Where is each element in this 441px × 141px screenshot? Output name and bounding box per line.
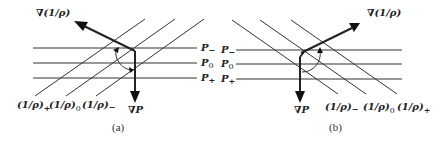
label-grad-pressure-a: ∇P xyxy=(128,104,144,115)
isostere-2-a xyxy=(66,19,175,96)
label-isostere-3-a: (1/ρ)− xyxy=(82,99,115,112)
label-isostere-1-a: (1/ρ)+ xyxy=(17,99,50,113)
label-isobar-p-plus-b: P+ xyxy=(220,73,235,86)
label-isostere-2-a: (1/ρ)0 xyxy=(49,99,81,113)
isostere-2-b xyxy=(260,20,366,94)
label-isobar-p-minus-b: P− xyxy=(220,44,235,57)
arrowhead-icon xyxy=(349,23,360,32)
angle-arc-b xyxy=(302,51,320,72)
panel-b: ∇(1/ρ) ∇P P− P0 P+ (1/ρ)− (1/ρ)0 (1/ρ)+ … xyxy=(220,7,430,134)
label-isobar-p-zero-a: P0 xyxy=(200,57,214,70)
grad-specific-volume-arrow-a xyxy=(82,25,135,51)
arrowhead-icon xyxy=(130,91,140,103)
label-isostere-1-b: (1/ρ)− xyxy=(325,101,358,114)
label-grad-specific-volume-b: ∇(1/ρ) xyxy=(367,7,402,18)
arrowhead-icon xyxy=(295,91,305,103)
solenoid-diagram: ∇(1/ρ) ∇P P− P0 P+ (1/ρ)+ (1/ρ)0 (1/ρ)− … xyxy=(0,0,441,141)
isostere-3-a xyxy=(96,19,204,96)
label-isostere-2-b: (1/ρ)0 xyxy=(363,101,395,115)
label-isobar-p-plus-a: P+ xyxy=(200,72,215,85)
label-grad-specific-volume-a: ∇(1/ρ) xyxy=(36,7,71,18)
label-isobar-p-minus-a: P− xyxy=(200,42,215,55)
label-isostere-3-b: (1/ρ)+ xyxy=(397,101,430,115)
panel-a: ∇(1/ρ) ∇P P− P0 P+ (1/ρ)+ (1/ρ)0 (1/ρ)− … xyxy=(17,7,215,134)
isostere-1-b xyxy=(232,20,338,94)
caption-b: (b) xyxy=(329,121,342,134)
caption-a: (a) xyxy=(112,121,125,134)
label-isobar-p-zero-b: P0 xyxy=(220,58,234,71)
isostere-1-a xyxy=(35,19,145,96)
label-grad-pressure-b: ∇P xyxy=(294,104,310,115)
